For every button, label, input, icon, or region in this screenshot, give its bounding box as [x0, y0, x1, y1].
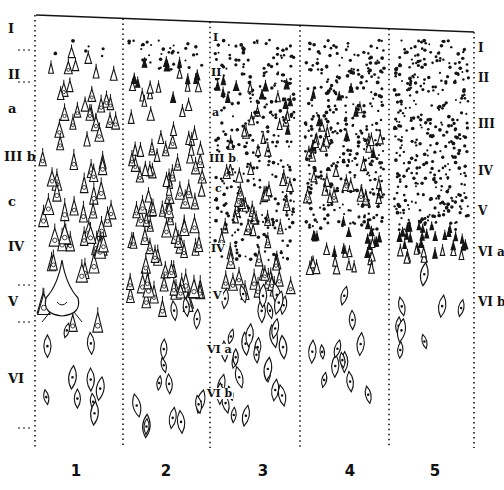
granule-cell [253, 110, 257, 114]
granule-cell [336, 189, 339, 192]
granule-cell [347, 159, 350, 162]
pyramidal-cell [170, 121, 176, 135]
granule-cell [407, 161, 411, 165]
granule-cell [308, 202, 311, 205]
granule-cell [357, 140, 361, 144]
pyramidal-cell [138, 195, 147, 213]
granule-cell [419, 124, 421, 126]
granule-cell [226, 146, 230, 150]
granule-cell [289, 44, 292, 47]
granule-cell [263, 191, 266, 194]
granule-cell [291, 221, 295, 225]
granule-cell [84, 49, 87, 52]
granule-cell [224, 227, 227, 230]
granule-cell [241, 124, 244, 127]
granule-cell [441, 89, 443, 91]
pyramidal-cell [88, 86, 96, 102]
granule-cell [377, 193, 381, 197]
granule-cell [446, 75, 449, 78]
granule-cell [421, 126, 423, 128]
inner-label-0: I [212, 32, 219, 43]
granule-cell [230, 185, 233, 188]
granule-cell [237, 101, 241, 105]
granule-cell [414, 81, 417, 84]
granule-cell [327, 89, 331, 93]
pyramidal-cell [112, 111, 120, 129]
granule-cell [334, 91, 338, 95]
granule-cell [395, 208, 397, 210]
pyramidal-cell [400, 227, 405, 236]
granule-cell [374, 139, 376, 141]
fusiform-cell [419, 262, 429, 286]
column-number-1: 1 [66, 462, 86, 480]
granule-cell [330, 139, 333, 142]
granule-cell [410, 119, 413, 122]
granule-cell [353, 54, 355, 56]
granule-cell [158, 40, 160, 42]
granule-cell [357, 104, 361, 108]
granule-cell [257, 155, 260, 158]
granule-cell [310, 135, 313, 138]
granule-cell [370, 75, 373, 78]
granule-cell [282, 165, 285, 168]
granule-cell [320, 68, 323, 71]
granule-cell [363, 110, 367, 114]
granule-cell [317, 115, 319, 117]
granule-cell [287, 98, 290, 101]
granule-cell [253, 41, 256, 44]
granule-cell [250, 101, 252, 103]
granule-cell [264, 216, 268, 220]
granule-cell [283, 80, 286, 83]
granule-cell [433, 206, 436, 209]
granule-cell [332, 44, 335, 47]
granule-cell [238, 254, 242, 258]
granule-cell [460, 199, 463, 202]
granule-cell [413, 45, 416, 48]
pyramidal-cell [408, 232, 412, 242]
granule-cell [430, 104, 433, 107]
pyramidal-cell [93, 307, 103, 332]
granule-cell [329, 109, 332, 112]
fusiform-cell [160, 357, 168, 373]
granule-cell [341, 95, 345, 99]
granule-cell [341, 224, 344, 227]
inner-label-5: IV [210, 243, 226, 254]
granule-cell [305, 157, 309, 161]
granule-cell [330, 186, 333, 189]
granule-cell [249, 221, 251, 223]
granule-cell [420, 113, 423, 116]
granule-cell [347, 42, 350, 45]
granule-cell [357, 144, 360, 147]
granule-cell [333, 209, 336, 212]
granule-cell [243, 173, 245, 175]
pyramidal-cell [425, 229, 429, 238]
granule-cell [267, 164, 270, 167]
granule-cell [243, 63, 245, 65]
granule-cell [267, 226, 270, 229]
right-label-VIb: VI b [478, 296, 504, 309]
granule-cell [234, 241, 238, 245]
fusiform-cell [238, 285, 248, 304]
granule-cell [393, 205, 395, 207]
granule-cell [463, 183, 465, 185]
granule-cell [450, 205, 454, 209]
granule-cell [339, 207, 341, 209]
pyramidal-cell [352, 260, 356, 272]
granule-cell [451, 118, 455, 122]
granule-cell [262, 233, 266, 237]
granule-cell [283, 198, 286, 201]
granule-cell [239, 43, 243, 47]
granule-cell [323, 217, 326, 220]
granule-cell [314, 178, 316, 180]
granule-cell [393, 88, 397, 92]
granule-cell [441, 156, 444, 159]
granule-cell [239, 204, 241, 206]
granule-cell [464, 175, 467, 178]
granule-cell [234, 231, 236, 233]
granule-cell [406, 170, 408, 172]
granule-cell [251, 89, 254, 92]
granule-cell [257, 146, 260, 149]
pyramidal-cell [84, 131, 90, 146]
granule-cell [287, 177, 289, 179]
granule-cell [451, 155, 453, 157]
